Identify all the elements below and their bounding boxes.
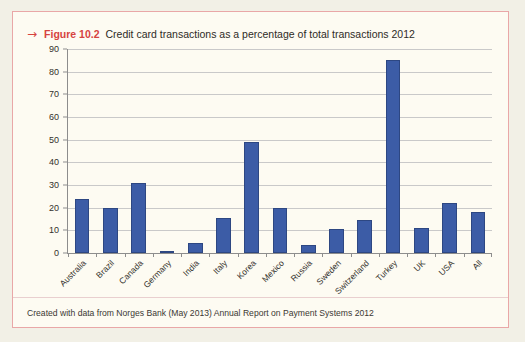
figure-caption: → Figure 10.2 Credit card transactions a…	[27, 28, 498, 44]
y-tick-label: 20	[49, 203, 59, 213]
bar-slot	[266, 49, 294, 253]
bar-slot	[238, 49, 266, 253]
bar-slot	[322, 49, 350, 253]
chart: 0102030405060708090 AustraliaBrazilCanad…	[39, 49, 491, 304]
figure-number: Figure 10.2	[44, 28, 99, 40]
arrow-right-icon: →	[27, 28, 37, 40]
x-tick-label: India	[181, 258, 201, 278]
y-tick-label: 90	[49, 44, 59, 54]
bar-slot	[96, 49, 124, 253]
footer-divider	[13, 297, 508, 298]
x-tick-label: All	[470, 258, 484, 272]
x-tick-label: Korea	[235, 258, 258, 281]
bar-slot	[125, 49, 153, 253]
bar	[131, 183, 146, 253]
bar	[386, 60, 401, 253]
bar	[301, 245, 316, 253]
footer-note: Created with data from Norges Bank (May …	[27, 308, 374, 318]
bar	[75, 199, 90, 253]
y-tick-label: 80	[49, 67, 59, 77]
bar	[442, 203, 457, 253]
x-tick-label: Russia	[289, 258, 314, 283]
bar	[244, 142, 259, 253]
figure-card: → Figure 10.2 Credit card transactions a…	[12, 11, 509, 328]
y-tick-label: 30	[49, 180, 59, 190]
bar-slot	[407, 49, 435, 253]
y-tick-label: 0	[54, 248, 59, 258]
bar	[357, 220, 372, 253]
bar	[329, 229, 344, 253]
bar-slot	[294, 49, 322, 253]
bar-series	[68, 49, 492, 253]
x-tick-label: USA	[436, 258, 455, 277]
bar-slot	[68, 49, 96, 253]
bar-slot	[435, 49, 463, 253]
bar-slot	[351, 49, 379, 253]
plot-area	[67, 49, 492, 254]
bar	[471, 212, 486, 253]
bar-slot	[209, 49, 237, 253]
bar-slot	[153, 49, 181, 253]
x-axis-end-tick	[491, 253, 492, 257]
bar	[103, 208, 118, 253]
x-tick-label: Turkey	[374, 258, 399, 283]
bar-slot	[379, 49, 407, 253]
y-tick-label: 70	[49, 89, 59, 99]
bar-slot	[181, 49, 209, 253]
y-tick-label: 40	[49, 157, 59, 167]
bar-slot	[464, 49, 492, 253]
y-axis: 0102030405060708090	[39, 49, 63, 253]
figure-title: Credit card transactions as a percentage…	[106, 28, 415, 40]
x-tick-label: Australia	[58, 258, 88, 288]
x-tick-label: Italy	[211, 258, 229, 276]
y-tick-label: 10	[49, 225, 59, 235]
x-tick-label: UK	[412, 258, 427, 273]
bar	[188, 243, 203, 253]
bar	[414, 228, 429, 253]
bar	[216, 218, 231, 253]
bar	[160, 251, 175, 253]
y-tick-label: 50	[49, 135, 59, 145]
y-tick-label: 60	[49, 112, 59, 122]
x-tick-label: Brazil	[94, 258, 116, 280]
bar	[273, 208, 288, 253]
